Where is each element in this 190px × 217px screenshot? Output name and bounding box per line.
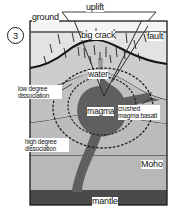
label-ground: ground (32, 13, 59, 22)
label-high-degree-dissociation: high degree dissociation (25, 138, 69, 152)
uplift-cone-left-upper (62, 12, 69, 21)
label-low-degree-dissociation: low degree dissociation (18, 85, 62, 99)
label-big-crack: big crack (81, 31, 115, 40)
label-fault: fault (147, 32, 163, 41)
figure-panel: 3 uplift ground big crack fault water ma… (0, 0, 190, 217)
panel-number: 3 (7, 27, 24, 44)
label-water: water (88, 70, 108, 79)
label-crushed-magma-basalt: crushed magma basalt (118, 105, 160, 120)
uplift-cone-right-upper (148, 12, 156, 21)
label-uplift: uplift (86, 3, 104, 12)
label-magma: magma (87, 107, 114, 116)
label-moho: Moho (141, 160, 163, 169)
label-mantle: mantle (92, 197, 118, 206)
